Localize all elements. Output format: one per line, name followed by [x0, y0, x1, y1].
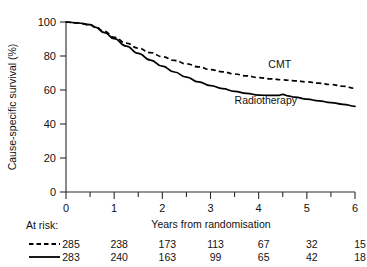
x-tick-label: 2 [159, 202, 165, 214]
x-tick-label: 4 [256, 202, 262, 214]
kaplan-meier-chart: 020406080100 0123456 Cause-specific surv… [0, 0, 367, 267]
survival-chart-figure: 020406080100 0123456 Cause-specific surv… [0, 0, 367, 267]
y-axis-title: Cause-specific survival (%) [6, 44, 18, 171]
y-tick-label: 0 [50, 186, 56, 198]
at-risk-count: 32 [306, 238, 318, 250]
x-tick-label: 0 [63, 202, 69, 214]
at-risk-count: 18 [354, 251, 366, 263]
at-risk-count: 99 [210, 251, 222, 263]
at-risk-count: 15 [354, 238, 366, 250]
at-risk-count: 163 [159, 251, 177, 263]
at-risk-count: 42 [306, 251, 318, 263]
x-axis-title: Years from randomisation [151, 218, 270, 230]
x-tick-label: 5 [304, 202, 310, 214]
at-risk-count: 240 [110, 251, 128, 263]
at-risk-count: 67 [258, 238, 270, 250]
x-tick-label: 1 [111, 202, 117, 214]
at-risk-count: 285 [62, 238, 80, 250]
at-risk-label: At risk: [26, 219, 58, 231]
at-risk-count: 113 [207, 238, 224, 250]
at-risk-count: 65 [258, 251, 270, 263]
at-risk-count: 173 [159, 238, 177, 250]
y-tick-label: 40 [44, 118, 56, 130]
at-risk-count: 238 [110, 238, 128, 250]
x-tick-label: 6 [352, 202, 358, 214]
x-tick-label: 3 [207, 202, 213, 214]
y-tick-label: 80 [44, 50, 56, 62]
y-tick-label: 60 [44, 84, 56, 96]
y-tick-label: 100 [38, 16, 56, 28]
y-tick-label: 20 [44, 152, 56, 164]
at-risk-count: 283 [62, 251, 80, 263]
curve-label-radiotherapy: Radiotherapy [235, 94, 298, 106]
curve-label-cmt: CMT [268, 58, 291, 70]
